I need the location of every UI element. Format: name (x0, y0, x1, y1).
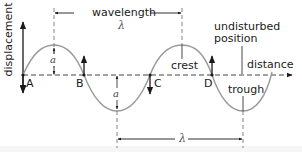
wave-diagram: displacement distance A B C D wavelength… (0, 0, 302, 152)
point-d-label: D (204, 78, 212, 90)
x-axis-label: distance (247, 59, 294, 71)
crest-label: crest (171, 60, 198, 72)
wavelength-label: wavelength (92, 7, 156, 19)
point-a-label: A (26, 78, 34, 90)
wave-curve (23, 45, 272, 111)
trough-label: trough (228, 84, 264, 96)
point-c-dot (148, 73, 151, 76)
cropped-caption (0, 146, 302, 152)
point-c-label: C (154, 78, 162, 90)
amplitude-label-top: a (50, 54, 56, 66)
y-axis-label: displacement (2, 17, 15, 77)
wavelength-symbol: λ (118, 20, 125, 32)
point-a-dot (21, 73, 24, 76)
point-b-label: B (76, 78, 84, 90)
undisturbed-label-line2: position (214, 33, 258, 45)
amplitude-label-bottom: a (113, 88, 119, 100)
bottom-wavelength-symbol: λ (177, 133, 188, 145)
